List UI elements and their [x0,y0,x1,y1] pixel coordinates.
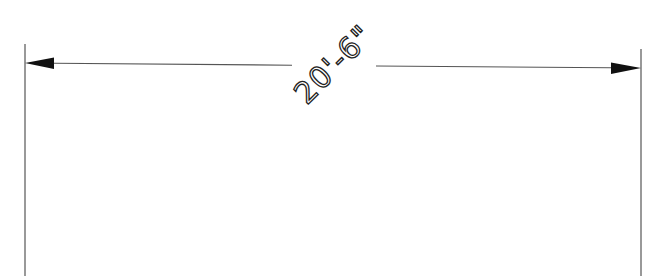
dimension-text: 20'-6" [287,18,380,111]
left-arrowhead-icon [25,58,54,70]
dimension-drawing: 20'-6" [0,0,652,280]
dimension-line-left-segment [54,63,292,65]
dimension-line-right-segment [376,66,611,68]
right-arrowhead-icon [611,63,641,75]
